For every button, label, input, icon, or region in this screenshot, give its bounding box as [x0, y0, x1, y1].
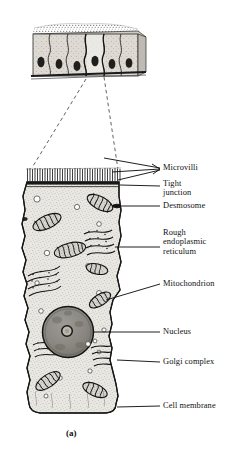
enlarged-cell — [20, 168, 122, 413]
figure-caption: (a) — [66, 428, 77, 438]
inset-highlighted-cell — [84, 34, 104, 76]
label-rough-er: Rough endoplasmic reticulum — [163, 228, 206, 256]
label-golgi-complex: Golgi complex — [163, 357, 214, 366]
nucleus — [43, 307, 94, 358]
nucleolus — [62, 326, 73, 337]
label-nucleus: Nucleus — [163, 327, 191, 336]
label-mitochondrion: Mitochondrion — [163, 279, 215, 288]
epithelial-cell-figure — [0, 0, 234, 451]
label-microvilli: Microvilli — [163, 163, 198, 172]
epithelium-inset — [31, 24, 146, 80]
microvilli — [26, 168, 121, 181]
label-desmosome: Desmosome — [163, 201, 205, 210]
tight-junction — [22, 182, 122, 187]
label-cell-membrane: Cell membrane — [163, 401, 216, 410]
label-tight-junction: Tight junction — [163, 179, 191, 198]
